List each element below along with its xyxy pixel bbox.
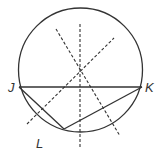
label-K: K bbox=[145, 81, 154, 94]
dashed-bisector-LK bbox=[27, 38, 114, 124]
dashed-bisector-JL bbox=[56, 29, 120, 136]
label-J: J bbox=[8, 81, 15, 94]
circle-diagram bbox=[0, 0, 160, 157]
diagram-canvas: J K L bbox=[0, 0, 160, 157]
label-L: L bbox=[36, 137, 43, 150]
chord-JL bbox=[19, 87, 64, 129]
